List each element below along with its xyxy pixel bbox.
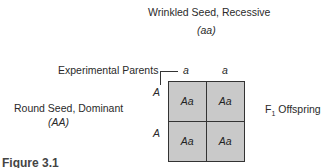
offspring-label: F1 Offspring <box>265 103 321 117</box>
experimental-parents-label: Experimental Parents <box>58 64 158 76</box>
row-allele-2: A <box>153 127 160 139</box>
left-parent-label: Round Seed, Dominant <box>14 102 123 114</box>
grid-cell: Aa <box>169 122 207 162</box>
left-parent-genotype: (AA) <box>48 116 69 128</box>
top-parent-label: Wrinkled Seed, Recessive <box>148 6 270 18</box>
grid-cell: Aa <box>169 82 207 122</box>
top-parent-genotype: (aa) <box>197 24 216 36</box>
connector-vertical <box>160 71 161 85</box>
connector-horizontal <box>160 71 178 72</box>
row-allele-1: A <box>153 86 160 98</box>
column-allele-1: a <box>183 64 189 76</box>
column-allele-2: a <box>222 64 228 76</box>
grid-cell: Aa <box>207 82 245 122</box>
punnett-grid: Aa Aa Aa Aa <box>168 81 245 162</box>
figure-caption: Figure 3.1 <box>2 156 59 168</box>
grid-cell: Aa <box>207 122 245 162</box>
